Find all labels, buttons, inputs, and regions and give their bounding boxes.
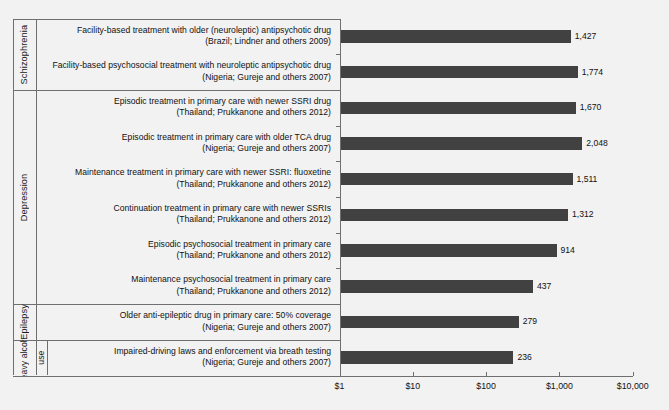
intervention-source: (Brazil; Lindner and others 2009)	[40, 36, 331, 47]
bar-value-label: 914	[561, 246, 575, 255]
group-divider	[13, 340, 340, 341]
category-axis	[340, 19, 341, 376]
bar	[340, 351, 514, 364]
intervention-name: Facility-based treatment with older (neu…	[40, 25, 331, 36]
intervention-name: Facility-based psychosocial treatment wi…	[40, 60, 331, 71]
bar	[340, 244, 557, 257]
group-label-heavy-alcohol-use-part1: Heavy alcohol	[13, 340, 36, 376]
group-divider	[13, 376, 340, 377]
intervention-name: Maintenance psychosocial treatment in pr…	[40, 274, 331, 285]
bar-value-label: 1,427	[575, 32, 597, 41]
x-axis-line	[340, 376, 633, 377]
group-label-epilepsy: Epilepsy	[13, 304, 36, 340]
bar	[340, 66, 578, 79]
group-label-rule-middle	[36, 340, 37, 376]
intervention-name: Episodic psychosocial treatment in prima…	[40, 239, 331, 250]
x-axis-tick-label: $1	[335, 382, 345, 391]
intervention-source: (Thailand; Prukkanone and others 2012)	[40, 214, 331, 225]
intervention-source: (Nigeria; Gureje and others 2007)	[40, 143, 331, 154]
intervention-label: Impaired-driving laws and enforcement vi…	[40, 346, 331, 369]
intervention-source: (Nigeria; Gureje and others 2007)	[40, 357, 331, 368]
x-axis-tick	[413, 372, 414, 376]
intervention-source: (Nigeria; Gureje and others 2007)	[40, 322, 331, 333]
x-axis-tick-label: $1,000	[546, 382, 573, 391]
x-axis-tick	[559, 372, 560, 376]
intervention-source: (Thailand; Prukkanone and others 2012)	[40, 107, 331, 118]
bar	[340, 30, 571, 43]
x-axis-tick	[633, 372, 634, 376]
intervention-label: Older anti-epileptic drug in primary car…	[40, 310, 331, 333]
intervention-label: Episodic treatment in primary care with …	[40, 96, 331, 119]
x-axis-tick-label: $10,000	[617, 382, 649, 391]
bar-value-label: 1,511	[577, 175, 598, 184]
intervention-label: Episodic treatment in primary care with …	[40, 132, 331, 155]
bar-value-label: 279	[523, 317, 537, 326]
intervention-source: (Thailand; Prukkanone and others 2012)	[40, 179, 331, 190]
group-divider	[13, 90, 340, 91]
bar	[340, 173, 573, 186]
intervention-label: Continuation treatment in primary care w…	[40, 203, 331, 226]
bar	[340, 209, 569, 222]
intervention-name: Maintenance treatment in primary care wi…	[40, 167, 331, 178]
bar-value-label: 2,048	[586, 139, 608, 148]
intervention-name: Continuation treatment in primary care w…	[40, 203, 331, 214]
x-axis-tick	[486, 372, 487, 376]
bar-value-label: 236	[517, 353, 531, 362]
bar-value-label: 1,774	[582, 68, 604, 77]
group-label-heavy-alcohol-use-part2: use	[36, 340, 47, 376]
intervention-name: Episodic treatment in primary care with …	[40, 132, 331, 143]
intervention-label: Episodic psychosocial treatment in prima…	[40, 239, 331, 262]
x-axis-tick-label: $10	[405, 382, 420, 391]
intervention-name: Older anti-epileptic drug in primary car…	[40, 310, 331, 321]
intervention-label: Maintenance psychosocial treatment in pr…	[40, 274, 331, 297]
intervention-source: (Thailand; Prukkanone and others 2012)	[40, 286, 331, 297]
intervention-name: Episodic treatment in primary care with …	[40, 96, 331, 107]
x-axis-tick	[340, 372, 341, 376]
x-axis-tick-label: $100	[476, 382, 496, 391]
intervention-label: Maintenance treatment in primary care wi…	[40, 167, 331, 190]
bar	[340, 280, 534, 293]
group-label-schizophrenia: Schizophrenia	[13, 19, 36, 90]
bar-value-label: 437	[537, 282, 551, 291]
bar-value-label: 1,312	[572, 210, 594, 219]
group-divider	[13, 19, 340, 20]
cost-effectiveness-bar-chart: Facility-based treatment with older (neu…	[0, 0, 669, 410]
group-divider	[13, 304, 340, 305]
bar	[340, 137, 583, 150]
bar-value-label: 1,670	[580, 103, 602, 112]
bar	[340, 316, 519, 329]
intervention-name: Impaired-driving laws and enforcement vi…	[40, 346, 331, 357]
intervention-label: Facility-based psychosocial treatment wi…	[40, 60, 331, 83]
bar	[340, 102, 576, 115]
intervention-source: (Nigeria; Gureje and others 2007)	[40, 72, 331, 83]
group-label-depression: Depression	[13, 90, 36, 304]
plot-area: Facility-based treatment with older (neu…	[0, 0, 669, 410]
intervention-label: Facility-based treatment with older (neu…	[40, 25, 331, 48]
intervention-source: (Thailand; Prukkanone and others 2012)	[40, 250, 331, 261]
